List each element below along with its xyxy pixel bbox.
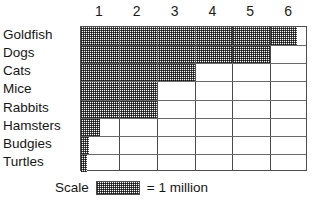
grid-vline-2: [157, 27, 158, 170]
column-header-6: 6: [269, 1, 307, 22]
grid-hline-4: [81, 100, 306, 101]
row-label-rabbits: Rabbits: [3, 99, 79, 117]
grid-vline-3: [195, 27, 196, 170]
column-header-5: 5: [231, 1, 269, 22]
row-label-goldfish: Goldfish: [3, 26, 79, 44]
column-header-4: 4: [194, 1, 232, 22]
row-label-cats: Cats: [3, 62, 79, 80]
column-header-2: 2: [118, 1, 156, 22]
plot-area: [80, 26, 307, 171]
grid-hline-6: [81, 136, 306, 137]
row-label-dogs: Dogs: [3, 44, 79, 62]
row-label-turtles: Turtles: [3, 153, 79, 171]
grid-vline-5: [270, 27, 271, 170]
grid-vline-4: [232, 27, 233, 170]
row-label-hamsters: Hamsters: [3, 117, 79, 135]
row-label-mice: Mice: [3, 80, 79, 98]
scale-legend-label: Scale: [55, 178, 89, 198]
scale-legend-swatch: [96, 181, 140, 195]
column-header-3: 3: [156, 1, 194, 22]
grid-vline-1: [119, 27, 120, 170]
column-header-1: 1: [80, 1, 118, 22]
column-header-row: 123456: [80, 1, 307, 24]
grid-hline-1: [81, 45, 306, 46]
grid-hline-3: [81, 81, 306, 82]
grid-hline-2: [81, 63, 306, 64]
grid-hline-5: [81, 118, 306, 119]
row-label-budgies: Budgies: [3, 135, 79, 153]
row-label-column: GoldfishDogsCatsMiceRabbitsHamstersBudgi…: [3, 26, 79, 171]
grid-hline-7: [81, 154, 306, 155]
scale-legend-equals: = 1 million: [147, 178, 208, 198]
pictogram-bar-chart: 123456 GoldfishDogsCatsMiceRabbitsHamste…: [0, 0, 318, 203]
scale-legend: Scale = 1 million: [55, 178, 208, 198]
grid-lines-layer: [81, 27, 306, 170]
